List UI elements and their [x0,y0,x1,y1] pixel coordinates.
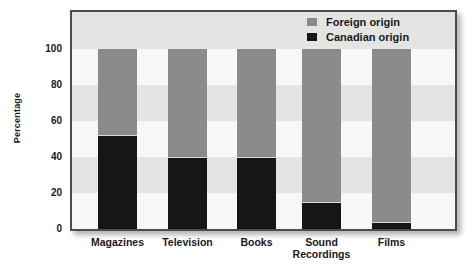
bar-television [168,49,207,229]
bar-segment-canadian [168,157,207,229]
y-axis-ticks: 100806040200 [0,0,63,274]
legend-label-foreign: Foreign origin [326,16,400,28]
x-axis-label-films: Films [354,236,430,248]
y-tick-60: 60 [2,114,62,128]
legend-item-canadian: Canadian origin [307,29,409,44]
legend-item-foreign: Foreign origin [307,14,409,29]
canadian-origin-swatch-icon [307,33,317,41]
bar-films [372,49,411,229]
bar-segment-canadian [372,222,411,229]
bar-segment-canadian [98,135,137,229]
x-axis-label-television: Television [150,236,226,248]
bar-segment-canadian [302,202,341,229]
bar-magazines [98,49,137,229]
y-tick-40: 40 [2,150,62,164]
y-tick-100: 100 [2,42,62,56]
bar-books [237,49,276,229]
y-tick-0: 0 [2,222,62,236]
y-tick-80: 80 [2,78,62,92]
legend-label-canadian: Canadian origin [326,31,409,43]
bars-layer [72,49,455,229]
x-axis-label-magazines: Magazines [80,236,156,248]
chart-figure: Percentage 100806040200 Foreign origin C… [0,0,468,274]
y-tick-20: 20 [2,186,62,200]
plot-area: Foreign origin Canadian origin [70,10,457,231]
foreign-origin-swatch-icon [307,18,317,26]
x-axis-label-sound-recordings: Sound Recordings [284,236,360,260]
bar-segment-canadian [237,157,276,229]
legend: Foreign origin Canadian origin [307,14,409,44]
bar-sound-recordings [302,49,341,229]
